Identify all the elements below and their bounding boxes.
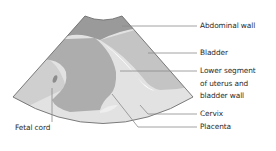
- label-text: Fetal cord: [15, 123, 50, 132]
- label-text: Abdominal wall: [200, 21, 255, 30]
- label-text-line-2: of uterus and: [200, 79, 256, 89]
- label-placenta: Placenta: [200, 122, 231, 132]
- label-text: Bladder: [200, 48, 228, 57]
- label-text-line-3: bladder wall: [200, 91, 256, 101]
- label-abdominal-wall: Abdominal wall: [200, 21, 255, 31]
- label-lower-segment: Lower segment of uterus and bladder wall: [200, 66, 256, 101]
- label-text-line-1: Lower segment: [200, 66, 256, 76]
- label-fetal-cord: Fetal cord: [15, 123, 50, 133]
- label-cervix: Cervix: [200, 109, 223, 119]
- label-text: Placenta: [200, 122, 231, 131]
- label-text: Cervix: [200, 109, 223, 118]
- label-bladder: Bladder: [200, 48, 228, 58]
